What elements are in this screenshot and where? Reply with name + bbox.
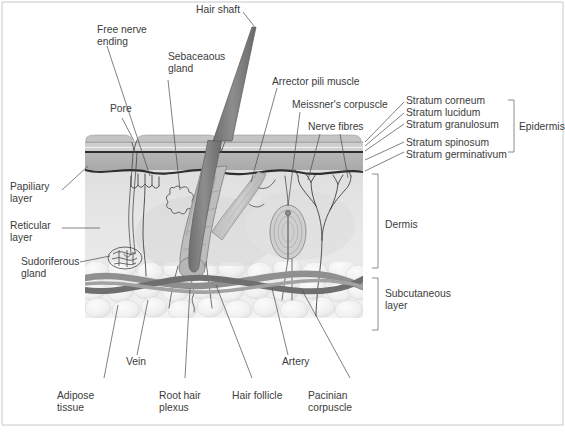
bracket-epidermis	[508, 100, 514, 152]
bracket-dermis	[372, 174, 378, 268]
label-reticular-layer-line1: Reticular	[10, 220, 51, 231]
label-stratum-germinativum: Stratum germinativum	[406, 149, 507, 160]
label-hair-follicle: Hair follicle	[232, 390, 283, 401]
label-stratum-lucidum: Stratum lucidum	[406, 107, 480, 118]
label-epidermis: Epidermis	[519, 121, 565, 132]
label-dermis: Dermis	[385, 219, 418, 230]
label-adipose-tissue-line1: Adipose	[57, 390, 94, 401]
label-nerve-fibres: Nerve fibres	[308, 121, 364, 132]
label-subcutaneous-layer-line2: layer	[385, 300, 408, 311]
label-pacinian-corpuscle-line1: Pacinian	[308, 390, 348, 401]
label-vein: Vein	[126, 356, 146, 367]
leader-stratum-germinativum	[365, 152, 404, 171]
label-stratum-corneum: Stratum corneum	[406, 95, 485, 106]
leader-papillary-layer	[62, 166, 88, 190]
leader-stratum-lucidum	[365, 113, 404, 146]
label-stratum-spinosum: Stratum spinosum	[406, 137, 489, 148]
label-papillary-layer-line2: layer	[10, 193, 33, 204]
label-stratum-granulosum: Stratum granulosum	[406, 119, 499, 130]
label-pore: Pore	[110, 103, 132, 114]
label-hair-shaft: Hair shaft	[196, 4, 240, 15]
label-free-nerve-ending-line2: ending	[97, 36, 128, 47]
skin-diagram-canvas: Hair shaft Free nerve ending Sebaceaous …	[0, 0, 565, 434]
label-subcutaneous-layer-line1: Subcutaneous	[385, 288, 451, 299]
label-sebaceous-gland-line1: Sebaceaous	[168, 51, 225, 62]
leader-stratum-spinosum	[365, 142, 404, 160]
hair-shaft-external	[213, 27, 256, 141]
label-free-nerve-ending-line1: Free nerve	[97, 24, 147, 35]
bracket-subcutaneous	[372, 278, 378, 330]
label-sudoriferous-gland-line2: gland	[21, 268, 46, 279]
skin-cross-section-figure: Hair shaft Free nerve ending Sebaceaous …	[0, 0, 565, 434]
label-reticular-layer-line2: layer	[10, 232, 33, 243]
skin-block	[78, 135, 372, 320]
leader-hair-shaft	[243, 12, 254, 26]
label-sebaceous-gland-line2: gland	[168, 63, 193, 74]
label-artery: Artery	[282, 356, 310, 367]
label-meissners-corpuscle: Meissner's corpuscle	[292, 99, 388, 110]
label-papillary-layer-line1: Papiliary	[10, 181, 50, 192]
label-root-hair-plexus-line2: plexus	[159, 402, 189, 413]
label-sudoriferous-gland-line1: Sudoriferous	[21, 256, 79, 267]
label-arrector-pili-muscle: Arrector pili muscle	[272, 76, 360, 87]
label-adipose-tissue-line2: tissue	[57, 402, 84, 413]
leader-stratum-granulosum	[365, 124, 404, 151]
label-root-hair-plexus-line1: Root hair	[159, 390, 201, 401]
label-pacinian-corpuscle-line2: corpuscle	[308, 402, 352, 413]
